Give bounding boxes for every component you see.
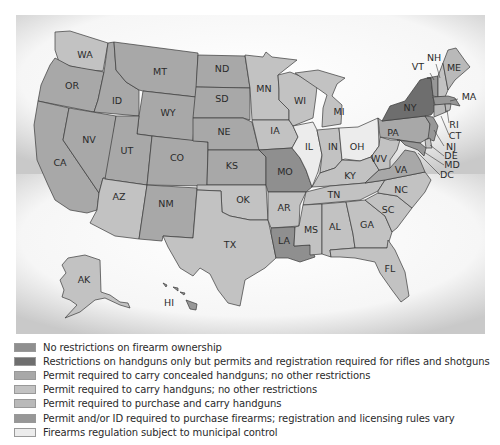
legend-label: No restrictions on firearm ownership — [43, 342, 222, 353]
label-NC: NC — [394, 184, 408, 195]
label-VT: VT — [412, 61, 424, 72]
legend: No restrictions on firearm ownership Res… — [14, 340, 494, 439]
legend-swatch — [14, 371, 36, 380]
legend-item: Permit and/or ID required to purchase fi… — [14, 411, 494, 425]
label-VA: VA — [395, 164, 408, 175]
label-AR: AR — [277, 202, 290, 213]
legend-label: Permit required to carry handguns; no ot… — [43, 384, 317, 395]
us-firearm-law-map: WA OR CA ID NV MT WY UT AZ CO NM ND SD N… — [0, 0, 500, 340]
label-FL: FL — [385, 263, 396, 274]
label-WY: WY — [160, 107, 175, 118]
label-NE: NE — [217, 126, 230, 137]
label-MT: MT — [153, 66, 167, 77]
label-ID: ID — [112, 95, 122, 106]
label-PA: PA — [387, 127, 399, 138]
label-NM: NM — [158, 198, 173, 209]
state-NM — [139, 185, 197, 241]
label-AZ: AZ — [112, 191, 125, 202]
legend-item: Firearms regulation subject to municipal… — [14, 425, 494, 439]
legend-label: Firearms regulation subject to municipal… — [43, 427, 277, 438]
legend-item: Restrictions on handguns only but permit… — [14, 354, 494, 368]
label-DC: DC — [440, 169, 454, 180]
label-MN: MN — [256, 83, 271, 94]
legend-label: Permit and/or ID required to purchase fi… — [43, 413, 455, 424]
legend-label: Permit required to carry concealed handg… — [43, 370, 370, 381]
legend-swatch — [14, 414, 36, 423]
label-AK: AK — [78, 274, 91, 285]
label-KS: KS — [226, 160, 238, 171]
label-MI: MI — [334, 106, 345, 117]
label-MO: MO — [277, 166, 293, 177]
legend-swatch — [14, 428, 36, 437]
label-IL: IL — [305, 141, 314, 152]
legend-item: Permit required to carry handguns; no ot… — [14, 383, 494, 397]
label-NY: NY — [404, 102, 417, 113]
label-NV: NV — [82, 134, 96, 145]
label-LA: LA — [278, 235, 291, 246]
label-IN: IN — [328, 141, 338, 152]
legend-label: Restrictions on handguns only but permit… — [43, 356, 490, 367]
label-CT: CT — [449, 130, 462, 141]
label-UT: UT — [121, 145, 134, 156]
legend-item: No restrictions on firearm ownership — [14, 340, 494, 354]
legend-swatch — [14, 357, 36, 366]
label-WI: WI — [294, 95, 306, 106]
label-TX: TX — [223, 239, 237, 250]
label-OR: OR — [65, 80, 79, 91]
label-ND: ND — [215, 63, 229, 74]
label-CO: CO — [170, 152, 184, 163]
label-OH: OH — [350, 141, 365, 152]
legend-label: Permit required to purchase and carry ha… — [43, 398, 281, 409]
label-CA: CA — [53, 157, 67, 168]
label-HI: HI — [164, 297, 174, 308]
label-NH: NH — [427, 52, 441, 63]
legend-swatch — [14, 343, 36, 352]
label-TN: TN — [327, 189, 341, 200]
label-OK: OK — [236, 194, 250, 205]
label-AL: AL — [329, 221, 341, 232]
label-WV: WV — [371, 153, 387, 164]
label-RI: RI — [449, 119, 458, 130]
label-MA: MA — [462, 91, 477, 102]
label-ME: ME — [447, 62, 461, 73]
label-WA: WA — [77, 49, 93, 60]
label-KY: KY — [344, 170, 356, 181]
label-MS: MS — [304, 224, 318, 235]
legend-swatch — [14, 385, 36, 394]
label-GA: GA — [360, 219, 374, 230]
label-IA: IA — [270, 125, 280, 136]
legend-item: Permit required to purchase and carry ha… — [14, 397, 494, 411]
label-SC: SC — [382, 204, 395, 215]
legend-swatch — [14, 399, 36, 408]
label-SD: SD — [215, 93, 228, 104]
legend-item: Permit required to carry concealed handg… — [14, 368, 494, 382]
